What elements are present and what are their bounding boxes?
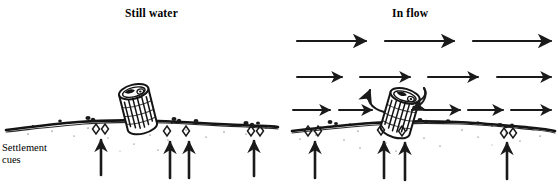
settlement-cues-label: Settlement cues: [2, 142, 47, 166]
settlement-cue-arrows-still: [93, 124, 264, 178]
settlement-cues-line-1: Settlement: [2, 142, 47, 154]
caddisfly-larva-case-still: [117, 81, 158, 137]
panel-title-still-water: Still water: [125, 7, 178, 19]
panel-title-in-flow: In flow: [392, 7, 428, 19]
settlement-diagram: [0, 0, 558, 187]
settlement-cues-line-2: cues: [2, 154, 47, 166]
